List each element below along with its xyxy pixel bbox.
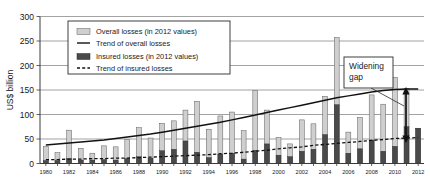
- x-tick-label: 2000: [272, 169, 284, 175]
- x-tick-label: 2006: [342, 169, 354, 175]
- bar-insured: [90, 160, 95, 163]
- chart-legend: Overall losses (in 2012 values) Trend of…: [68, 21, 230, 74]
- y-tick-label: 0: [29, 159, 34, 169]
- bar-insured: [311, 149, 316, 163]
- bar-insured: [288, 157, 293, 164]
- bar-insured: [102, 160, 107, 164]
- y-tick-label: 250: [20, 36, 34, 46]
- y-tick-label: 150: [20, 85, 34, 95]
- x-tick-label: 1988: [133, 169, 145, 175]
- x-tick-label: 2010: [389, 169, 401, 175]
- bar-insured: [241, 159, 246, 163]
- x-tick-label: 2004: [319, 169, 331, 175]
- legend-swatch-overall-losses: [77, 29, 90, 35]
- y-tick-label: 300: [20, 12, 34, 22]
- bar-insured: [323, 135, 328, 164]
- bar-insured: [299, 151, 304, 163]
- bar-overall: [241, 131, 246, 164]
- bar-insured: [148, 158, 153, 163]
- legend-label-insured-losses: Insured losses (in 2012 values): [96, 52, 198, 61]
- x-tick-label: 1990: [156, 169, 168, 175]
- x-tick-label: 1982: [63, 169, 75, 175]
- y-axis-title: US$ billion: [5, 69, 15, 110]
- bar-insured: [346, 153, 351, 163]
- bar-insured: [416, 128, 421, 163]
- bar-insured: [369, 140, 374, 164]
- legend-swatch-insured-losses: [77, 54, 90, 60]
- bar-insured: [253, 150, 258, 163]
- annotation-text-line1: Widening: [349, 61, 384, 71]
- bar-insured: [206, 158, 211, 164]
- x-tick-label: 1996: [226, 169, 238, 175]
- bar-insured: [113, 160, 118, 163]
- annotation-text-line2: gap: [349, 72, 363, 82]
- legend-label-trend-overall: Trend of overall losses: [96, 39, 170, 48]
- x-tick-label: 1986: [109, 169, 121, 175]
- x-tick-label: 2002: [296, 169, 308, 175]
- y-axis-ticks-group: 050100150200250300: [20, 12, 40, 169]
- bar-insured: [264, 144, 269, 164]
- y-tick-label: 50: [25, 134, 35, 144]
- widening-gap-annotation: Widening gap: [344, 57, 410, 143]
- bar-insured: [392, 146, 397, 163]
- bar-insured: [230, 153, 235, 163]
- x-tick-label: 2012: [412, 169, 424, 175]
- bar-insured: [381, 151, 386, 163]
- y-tick-label: 100: [20, 110, 34, 120]
- legend-label-overall-losses: Overall losses (in 2012 values): [96, 27, 197, 36]
- bar-insured: [334, 105, 339, 164]
- bar-insured: [218, 154, 223, 163]
- chart-canvas: 050100150200250300 198019821984198619881…: [0, 0, 430, 188]
- y-tick-label: 200: [20, 61, 34, 71]
- x-tick-label: 1984: [86, 169, 98, 175]
- bar-insured: [78, 160, 83, 163]
- x-tick-label: 1998: [249, 169, 261, 175]
- x-tick-label: 2008: [365, 169, 377, 175]
- bar-insured: [358, 149, 363, 164]
- bar-insured: [183, 141, 188, 164]
- bar-insured: [125, 159, 130, 164]
- x-axis-ticks-group: 1980198219841986198819901992199419961998…: [40, 164, 425, 175]
- loss-trend-chart: 050100150200250300 198019821984198619881…: [0, 0, 430, 188]
- bar-insured: [276, 155, 281, 163]
- x-tick-label: 1994: [203, 169, 215, 175]
- x-tick-label: 1980: [40, 169, 52, 175]
- x-tick-label: 1992: [179, 169, 191, 175]
- bar-insured: [195, 152, 200, 163]
- legend-label-trend-insured: Trend of insured losses: [96, 64, 173, 73]
